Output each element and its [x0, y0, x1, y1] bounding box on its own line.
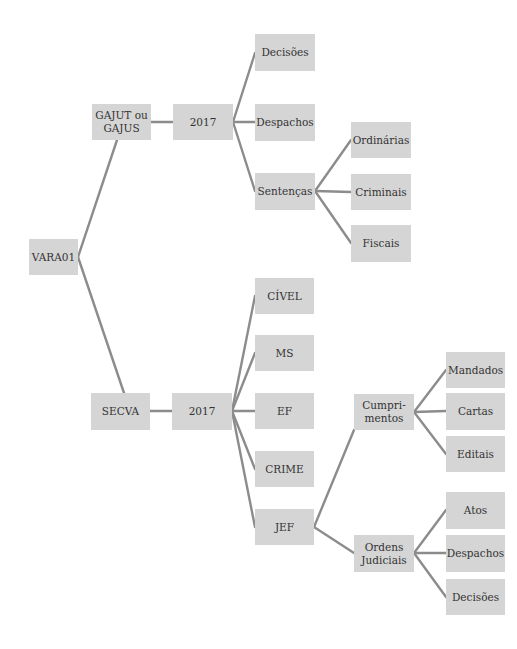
edge-jef-to-ordens-judiciais — [314, 527, 354, 553]
node-secva: SECVA — [91, 393, 150, 430]
node-ef: EF — [255, 393, 314, 429]
node-secva-2017: 2017 — [172, 393, 232, 430]
edge-secva-2017-to-crime — [232, 411, 255, 469]
edge-cumprimentos-to-mandados — [414, 370, 446, 412]
node-oj-despachos: Despachos — [446, 535, 505, 572]
node-editais: Editais — [446, 436, 505, 472]
edge-secva-2017-to-civel — [232, 296, 255, 411]
edge-ordens-judiciais-to-atos — [414, 510, 446, 553]
edge-ordens-judiciais-to-oj-decisoes — [414, 553, 446, 597]
edge-vara01-to-secva — [78, 257, 124, 393]
edge-vara01-to-gajut — [78, 140, 117, 257]
node-gajut-2017: 2017 — [173, 104, 233, 140]
node-vara01: VARA01 — [29, 239, 78, 275]
node-criminais: Criminais — [351, 174, 411, 210]
node-mandados: Mandados — [446, 352, 505, 388]
edge-jef-to-cumprimentos — [314, 430, 354, 527]
edge-gajut-2017-to-sentencas — [233, 122, 255, 191]
edge-cumprimentos-to-cartas — [414, 411, 446, 412]
node-ms: MS — [255, 335, 314, 371]
node-ordens-judiciais: Ordens Judiciais — [354, 535, 414, 572]
node-oj-decisoes: Decisões — [446, 579, 505, 615]
edge-cumprimentos-to-editais — [414, 412, 446, 454]
node-gajut-despachos: Despachos — [255, 104, 315, 141]
tree-diagram: VARA01GAJUT ou GAJUS2017DecisõesDespacho… — [0, 0, 517, 649]
node-gajut-decisoes: Decisões — [255, 34, 315, 71]
node-gajut: GAJUT ou GAJUS — [92, 104, 151, 140]
node-atos: Atos — [446, 492, 505, 529]
node-fiscais: Fiscais — [351, 225, 411, 262]
edge-layer — [0, 0, 517, 649]
edge-sentencas-to-fiscais — [315, 191, 351, 243]
node-sentencas: Sentenças — [255, 173, 315, 210]
edge-secva-2017-to-jef — [232, 411, 255, 527]
node-cumprimentos: Cumpri- mentos — [354, 394, 414, 430]
node-cartas: Cartas — [446, 393, 505, 430]
edge-secva-2017-to-ms — [232, 353, 255, 411]
edge-sentencas-to-criminais — [315, 191, 351, 192]
edge-sentencas-to-ordinarias — [315, 140, 351, 191]
node-civel: CÍVEL — [255, 278, 314, 314]
node-jef: JEF — [255, 509, 314, 545]
edge-gajut-2017-to-gajut-decisoes — [233, 53, 255, 122]
node-crime: CRIME — [255, 451, 314, 487]
node-ordinarias: Ordinárias — [351, 122, 411, 158]
